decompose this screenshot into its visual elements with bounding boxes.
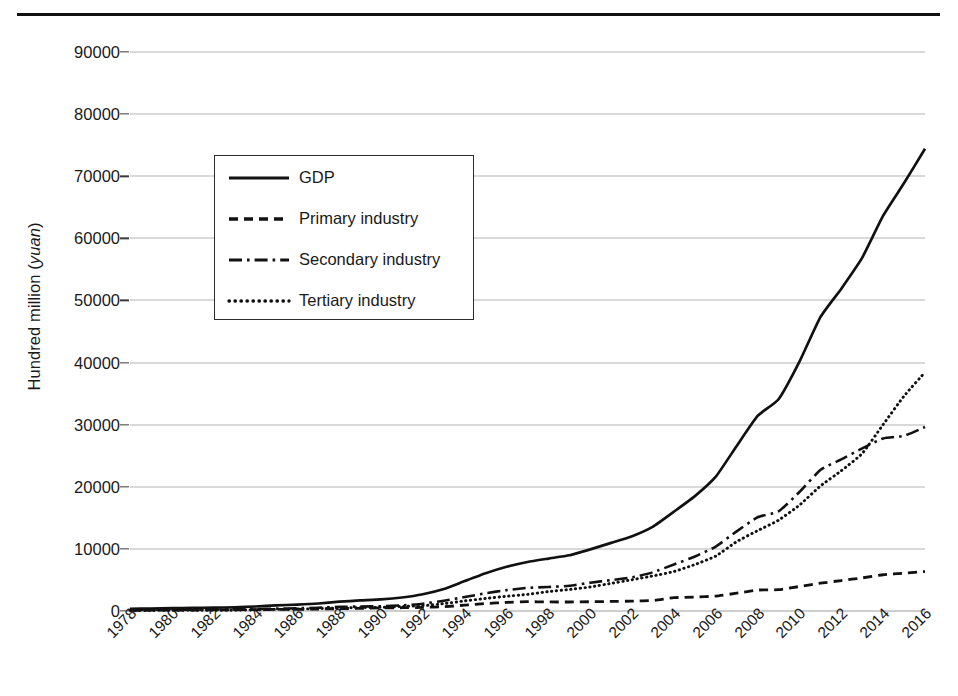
y-tick-label-text: 0 bbox=[52, 603, 120, 620]
top-rule-divider bbox=[17, 13, 940, 16]
legend-swatch-solid-icon bbox=[228, 171, 290, 185]
series-line-secondary-industry bbox=[130, 427, 925, 610]
legend-label: Secondary industry bbox=[299, 250, 440, 269]
y-tick-mark bbox=[120, 113, 129, 114]
y-tick-mark bbox=[120, 238, 129, 239]
legend-swatch-dashed-icon bbox=[228, 212, 290, 226]
series-line-primary-industry bbox=[130, 572, 925, 611]
legend-item-gdp: GDP bbox=[215, 157, 473, 198]
y-tick-mark bbox=[120, 300, 129, 301]
y-tick-mark bbox=[120, 424, 129, 425]
gridline bbox=[130, 486, 925, 487]
y-tick-label-text: 80000 bbox=[52, 106, 120, 123]
gridline bbox=[130, 424, 925, 425]
y-tick-mark bbox=[120, 176, 129, 177]
y-axis-title-italic: yuan bbox=[25, 228, 43, 264]
y-tick-mark bbox=[120, 486, 129, 487]
y-tick-label-text: 10000 bbox=[52, 541, 120, 558]
gridline bbox=[130, 52, 925, 53]
y-axis-title: Hundred million (yuan) bbox=[25, 142, 44, 472]
y-tick-mark bbox=[120, 51, 129, 52]
y-tick-mark bbox=[120, 548, 129, 549]
legend-swatch-dotted-icon bbox=[228, 294, 290, 308]
legend-label: GDP bbox=[299, 168, 335, 187]
y-tick-label-text: 40000 bbox=[52, 354, 120, 371]
y-tick-label-text: 90000 bbox=[52, 44, 120, 61]
series-line-tertiary-industry bbox=[130, 372, 925, 610]
legend-item-secondary-industry: Secondary industry bbox=[215, 239, 473, 280]
y-tick-label-text: 70000 bbox=[52, 168, 120, 185]
legend-label: Tertiary industry bbox=[299, 291, 415, 310]
gridline bbox=[130, 114, 925, 115]
legend-swatch-dashdot-icon bbox=[228, 253, 290, 267]
legend: GDPPrimary industrySecondary industryTer… bbox=[214, 155, 474, 320]
y-tick-label-text: 60000 bbox=[52, 230, 120, 247]
y-tick-mark bbox=[120, 362, 129, 363]
gridline bbox=[130, 362, 925, 363]
y-axis-title-tail: ) bbox=[25, 222, 43, 228]
legend-item-tertiary-industry: Tertiary industry bbox=[215, 280, 473, 321]
legend-item-primary-industry: Primary industry bbox=[215, 198, 473, 239]
y-axis-title-plain: Hundred million ( bbox=[25, 264, 43, 390]
gridline bbox=[130, 548, 925, 549]
legend-label: Primary industry bbox=[299, 209, 418, 228]
y-tick-label-text: 30000 bbox=[52, 416, 120, 433]
chart-figure: Hundred million (yuan) 90000800007000060… bbox=[0, 0, 958, 696]
y-tick-label-text: 20000 bbox=[52, 479, 120, 496]
plot-lines bbox=[0, 0, 958, 696]
y-tick-label-text: 50000 bbox=[52, 292, 120, 309]
